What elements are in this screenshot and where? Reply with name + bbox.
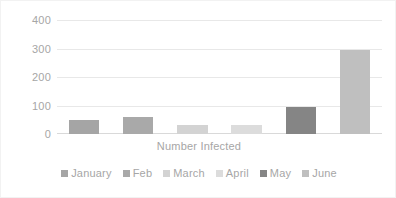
y-axis-tick-label: 200 — [5, 71, 51, 83]
y-axis: 0100200300400 — [1, 20, 51, 134]
bar-april — [231, 125, 261, 134]
legend-item-june[interactable]: June — [302, 167, 337, 179]
bar-feb — [123, 117, 153, 134]
bar-june — [340, 50, 370, 134]
y-axis-tick-label: 400 — [5, 14, 51, 26]
y-axis-tick-label: 100 — [5, 100, 51, 112]
legend-item-january[interactable]: January — [61, 167, 112, 179]
bars-layer — [57, 20, 382, 134]
bar-march — [177, 125, 207, 134]
legend-swatch-icon — [302, 170, 309, 177]
chart-legend: JanuaryFebMarchAprilMayJune — [1, 167, 396, 179]
legend-item-march[interactable]: March — [163, 167, 205, 179]
legend-label: April — [226, 167, 249, 179]
bar-january — [69, 120, 99, 134]
legend-item-may[interactable]: May — [260, 167, 291, 179]
y-axis-tick-label: 0 — [5, 128, 51, 140]
y-axis-tick-label: 300 — [5, 43, 51, 55]
legend-swatch-icon — [61, 170, 68, 177]
legend-label: January — [71, 167, 112, 179]
bar-chart: 0100200300400 Number Infected JanuaryFeb… — [0, 0, 396, 198]
legend-item-feb[interactable]: Feb — [123, 167, 153, 179]
axis-title: Number Infected — [1, 140, 396, 152]
bar-may — [286, 107, 316, 134]
legend-swatch-icon — [216, 170, 223, 177]
legend-label: May — [270, 167, 291, 179]
legend-label: March — [173, 167, 205, 179]
legend-swatch-icon — [123, 170, 130, 177]
legend-swatch-icon — [163, 170, 170, 177]
legend-item-april[interactable]: April — [216, 167, 249, 179]
legend-label: Feb — [133, 167, 153, 179]
legend-label: June — [312, 167, 337, 179]
legend-swatch-icon — [260, 170, 267, 177]
